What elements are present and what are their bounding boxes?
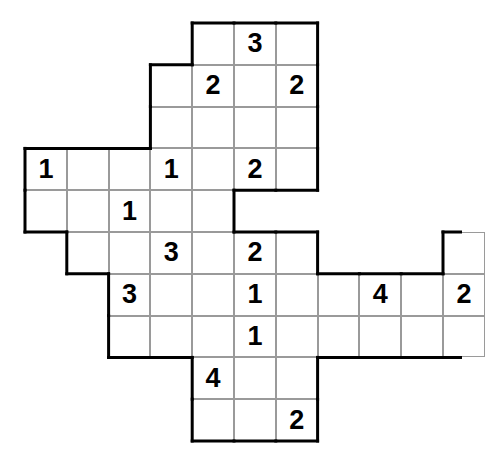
clue-cell[interactable]: 3 — [234, 23, 276, 65]
cell-value: 4 — [206, 365, 221, 392]
grid-cell[interactable] — [150, 316, 192, 358]
grid-cell[interactable] — [109, 316, 151, 358]
grid-cell[interactable] — [192, 148, 234, 190]
clue-cell[interactable]: 4 — [192, 357, 234, 399]
cell-value: 3 — [122, 281, 137, 308]
clue-cell[interactable]: 2 — [234, 232, 276, 274]
grid-cell[interactable] — [276, 274, 318, 316]
cell-value: 2 — [289, 72, 304, 99]
grid-cell[interactable] — [234, 107, 276, 149]
grid-cell[interactable] — [276, 232, 318, 274]
grid-cell[interactable] — [192, 190, 234, 232]
grid-cell[interactable] — [318, 274, 360, 316]
cell-value: 4 — [373, 281, 388, 308]
cell-value: 2 — [456, 281, 471, 308]
grid-cell[interactable] — [67, 190, 109, 232]
grid-cell[interactable] — [109, 148, 151, 190]
cell-value: 1 — [247, 281, 262, 308]
grid-cell[interactable] — [359, 316, 401, 358]
cell-value: 2 — [247, 239, 262, 266]
cell-value: 2 — [289, 407, 304, 434]
grid-cell[interactable] — [192, 399, 234, 441]
grid-cell[interactable] — [276, 107, 318, 149]
grid-cell[interactable] — [276, 23, 318, 65]
grid-cell[interactable] — [67, 148, 109, 190]
grid-cell[interactable] — [150, 274, 192, 316]
clue-cell[interactable]: 2 — [234, 148, 276, 190]
grid-cell[interactable] — [276, 148, 318, 190]
clue-cell[interactable]: 3 — [109, 274, 151, 316]
grid-cell[interactable] — [276, 357, 318, 399]
clue-cell[interactable]: 4 — [359, 274, 401, 316]
grid-cell[interactable] — [443, 232, 485, 274]
grid-cell[interactable] — [318, 316, 360, 358]
clue-cell[interactable]: 2 — [192, 65, 234, 107]
cell-value: 1 — [38, 156, 53, 183]
clue-cell[interactable]: 1 — [109, 190, 151, 232]
clue-cell[interactable]: 1 — [150, 148, 192, 190]
grid-cell[interactable] — [25, 190, 67, 232]
cell-value: 2 — [206, 72, 221, 99]
clue-cell[interactable]: 2 — [276, 65, 318, 107]
grid-cell[interactable] — [109, 232, 151, 274]
clue-cell[interactable]: 1 — [25, 148, 67, 190]
grid-cell[interactable] — [401, 274, 443, 316]
grid-cell[interactable] — [67, 232, 109, 274]
clue-cell[interactable]: 2 — [276, 399, 318, 441]
grid-cell[interactable] — [192, 316, 234, 358]
cell-value: 1 — [247, 323, 262, 350]
cell-value: 3 — [164, 239, 179, 266]
grid-cell[interactable] — [192, 107, 234, 149]
clue-cell[interactable]: 2 — [443, 274, 485, 316]
grid-cell[interactable] — [234, 399, 276, 441]
grid-cell[interactable] — [401, 316, 443, 358]
cell-value: 2 — [247, 156, 262, 183]
grid-cell[interactable] — [150, 65, 192, 107]
clue-cell[interactable]: 1 — [234, 316, 276, 358]
cell-value: 3 — [247, 30, 262, 57]
grid-cell[interactable] — [192, 274, 234, 316]
grid-cell[interactable] — [234, 65, 276, 107]
clue-cell[interactable]: 1 — [234, 274, 276, 316]
grid-cell[interactable] — [234, 357, 276, 399]
grid-cell[interactable] — [150, 190, 192, 232]
grid-cell[interactable] — [443, 316, 485, 358]
cell-value: 1 — [122, 198, 137, 225]
clue-cell[interactable]: 3 — [150, 232, 192, 274]
grid-cell[interactable] — [150, 107, 192, 149]
grid-cell[interactable] — [276, 316, 318, 358]
grid-cell[interactable] — [192, 23, 234, 65]
cell-value: 1 — [164, 156, 179, 183]
grid-cell[interactable] — [192, 232, 234, 274]
